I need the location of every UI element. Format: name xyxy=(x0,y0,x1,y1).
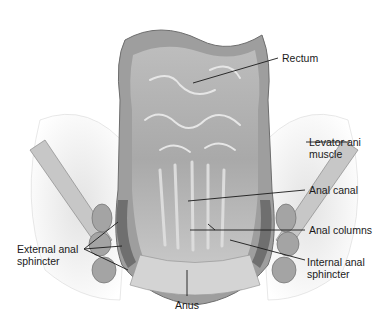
anatomy-illustration xyxy=(0,0,388,330)
label-internal-anal-sphincter: Internal anal sphincter xyxy=(307,256,365,280)
label-anal-canal: Anal canal xyxy=(309,184,358,196)
label-anal-columns: Anal columns xyxy=(309,224,372,236)
label-external-anal-sphincter: External anal sphincter xyxy=(17,243,78,267)
label-anus: Anus xyxy=(175,299,199,311)
label-levator-ani-muscle: Levator ani muscle xyxy=(309,136,361,160)
label-rectum: Rectum xyxy=(282,52,318,64)
